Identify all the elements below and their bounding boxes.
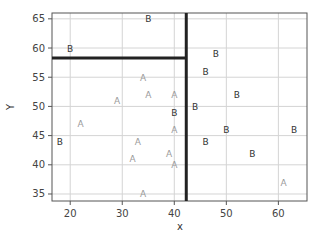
x-tick-label: 40 xyxy=(168,208,181,219)
point-label-a: A xyxy=(135,137,142,147)
point-label-b: B xyxy=(171,108,177,118)
y-tick-label: 50 xyxy=(32,101,45,112)
point-label-b: B xyxy=(291,125,297,135)
point-label-a: A xyxy=(145,90,152,100)
point-label-a: A xyxy=(78,119,85,129)
point-label-b: B xyxy=(223,125,229,135)
point-label-b: B xyxy=(202,67,208,77)
point-label-a: A xyxy=(114,96,121,106)
point-label-a: A xyxy=(140,73,147,83)
y-tick-label: 40 xyxy=(32,159,45,170)
y-tick-label: 65 xyxy=(32,13,45,24)
y-axis-ticks: 35404550556065 xyxy=(32,13,52,199)
split-lines xyxy=(52,13,186,201)
x-tick-label: 60 xyxy=(272,208,285,219)
point-label-a: A xyxy=(166,149,173,159)
y-tick-label: 55 xyxy=(32,72,45,83)
point-label-a: A xyxy=(171,160,178,170)
y-tick-label: 60 xyxy=(32,43,45,54)
data-points: AAAAAAAAAAAABBBBBBBBBBBB xyxy=(57,14,297,199)
x-axis-ticks: 2030405060 xyxy=(64,201,285,219)
grid-lines xyxy=(52,13,307,201)
scatter-chart: 35404550556065 2030405060 AAAAAAAAAAAABB… xyxy=(0,0,322,243)
plot-frame xyxy=(52,13,307,201)
point-label-b: B xyxy=(234,90,240,100)
point-label-a: A xyxy=(130,154,137,164)
y-axis-label: Y xyxy=(5,103,16,111)
point-label-b: B xyxy=(145,14,151,24)
x-tick-label: 20 xyxy=(64,208,77,219)
point-label-b: B xyxy=(202,137,208,147)
x-tick-label: 30 xyxy=(116,208,129,219)
point-label-b: B xyxy=(249,149,255,159)
point-label-b: B xyxy=(213,49,219,59)
point-label-a: A xyxy=(140,189,147,199)
point-label-a: A xyxy=(280,178,287,188)
point-label-a: A xyxy=(171,90,178,100)
point-label-a: A xyxy=(171,125,178,135)
y-tick-label: 35 xyxy=(32,188,45,199)
x-tick-label: 50 xyxy=(220,208,233,219)
x-axis-label: x xyxy=(177,221,183,232)
point-label-b: B xyxy=(57,137,63,147)
y-tick-label: 45 xyxy=(32,130,45,141)
point-label-b: B xyxy=(192,102,198,112)
point-label-b: B xyxy=(67,44,73,54)
